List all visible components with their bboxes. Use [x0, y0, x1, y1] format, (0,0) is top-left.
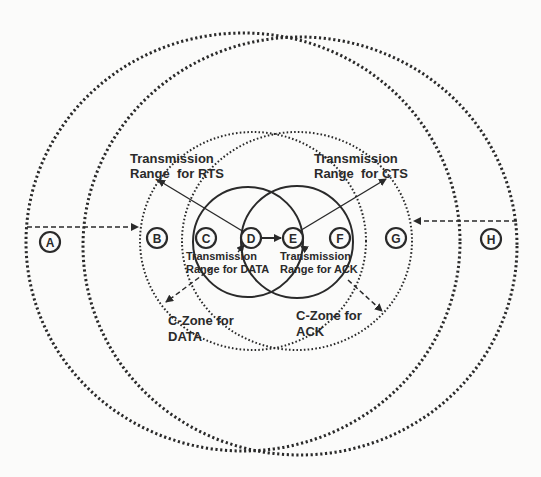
node-f: F: [330, 228, 350, 248]
czone-ack-arrow: [348, 280, 382, 311]
czone-ack-label-line2: ACK: [296, 324, 325, 339]
rts-arrow: [158, 180, 244, 232]
diagram-canvas: A B C D E F G H Transmission Range for R…: [0, 0, 541, 477]
node-f-label: F: [336, 232, 343, 246]
ack-label-line2: Range for ACK: [280, 263, 358, 275]
ack-label-line1: Transmission: [280, 250, 351, 262]
node-b-label: B: [153, 232, 162, 246]
rts-label-line2: Range for RTS: [130, 166, 224, 181]
czone-ack-label-line1: C-Zone for: [296, 308, 362, 323]
node-e: E: [283, 228, 303, 248]
node-d: D: [241, 228, 261, 248]
cts-label-line2: Range for CTS: [314, 166, 408, 181]
czone-data-label-line2: DATA: [168, 329, 203, 344]
czone-data-label-line1: C-Zone for: [168, 313, 234, 328]
node-c-label: C: [202, 232, 211, 246]
node-h: H: [481, 229, 501, 249]
cts-label-line1: Transmission: [314, 151, 398, 166]
node-a-label: A: [46, 236, 55, 250]
data-label-line1: Transmission: [186, 250, 257, 262]
node-b: B: [147, 228, 167, 248]
node-d-label: D: [247, 232, 256, 246]
data-label-line2: Range for DATA: [186, 263, 269, 275]
node-e-label: E: [289, 232, 297, 246]
node-c: C: [196, 228, 216, 248]
node-h-label: H: [487, 233, 496, 247]
node-g-label: G: [391, 232, 400, 246]
node-g: G: [386, 228, 406, 248]
rts-label-line1: Transmission: [130, 151, 214, 166]
node-a: A: [40, 232, 60, 252]
